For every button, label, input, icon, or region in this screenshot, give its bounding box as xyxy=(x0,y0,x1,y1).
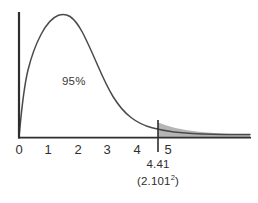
distribution-plot xyxy=(0,0,258,203)
critical-value-label: 4.41 xyxy=(128,159,188,171)
critical-value-source-suffix: ) xyxy=(175,175,179,187)
x-tick-label-4: 4 xyxy=(129,143,145,156)
x-tick-label-3: 3 xyxy=(99,143,115,156)
critical-value-source-label: (2.1012) xyxy=(118,176,198,188)
x-tick-label-2: 2 xyxy=(70,143,86,156)
x-tick-label-0: 0 xyxy=(11,143,27,156)
right-tail-shaded-region xyxy=(158,122,250,137)
x-tick-label-5: 5 xyxy=(160,143,176,156)
density-curve xyxy=(19,14,250,137)
f-distribution-figure: 0 1 2 3 4 5 95% 4.41 (2.1012) xyxy=(0,0,258,203)
area-percent-label: 95% xyxy=(62,76,86,88)
x-tick-label-1: 1 xyxy=(40,143,56,156)
critical-value-source-prefix: (2.101 xyxy=(137,175,171,187)
